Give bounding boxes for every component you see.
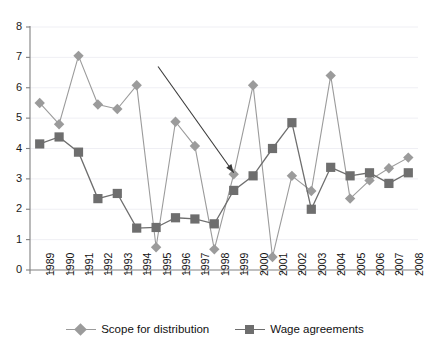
x-tick-label-1995: 1995 bbox=[161, 253, 173, 276]
square-marker-icon bbox=[245, 325, 254, 334]
x-tick-label-2004: 2004 bbox=[335, 253, 347, 276]
x-tick-label-2007: 2007 bbox=[393, 253, 405, 276]
x-tick-label-1996: 1996 bbox=[180, 253, 192, 276]
chart-container: 876543210 198919901991199219931994199519… bbox=[0, 0, 430, 343]
x-tick-label-1992: 1992 bbox=[102, 253, 114, 276]
legend-swatch-square-icon bbox=[235, 323, 265, 335]
diamond-marker-icon bbox=[74, 323, 87, 336]
x-tick-label-1997: 1997 bbox=[199, 253, 211, 276]
x-tick-label-2000: 2000 bbox=[258, 253, 270, 276]
legend-swatch-diamond-icon bbox=[66, 323, 96, 335]
legend-label-wage: Wage agreements bbox=[268, 323, 364, 335]
x-tick-label-1998: 1998 bbox=[219, 253, 231, 276]
x-tick-label-1993: 1993 bbox=[122, 253, 134, 276]
x-tick-label-1991: 1991 bbox=[83, 253, 95, 276]
x-tick-label-2005: 2005 bbox=[355, 253, 367, 276]
x-tick-label-1999: 1999 bbox=[238, 253, 250, 276]
x-tick-label-1990: 1990 bbox=[64, 253, 76, 276]
legend-label-scope: Scope for distribution bbox=[99, 323, 209, 335]
legend-item-scope-for-distribution[interactable]: Scope for distribution bbox=[66, 323, 209, 335]
x-tick-label-2003: 2003 bbox=[316, 253, 328, 276]
chart-legend: Scope for distribution Wage agreements bbox=[0, 318, 430, 340]
x-tick-label-1994: 1994 bbox=[141, 253, 153, 276]
x-tick-label-2002: 2002 bbox=[296, 253, 308, 276]
x-tick-label-2001: 2001 bbox=[277, 253, 289, 276]
x-tick-label-2006: 2006 bbox=[374, 253, 386, 276]
x-tick-label-2008: 2008 bbox=[413, 253, 425, 276]
x-axis-labels: 1989199019911992199319941995199619971998… bbox=[0, 0, 430, 343]
x-tick-label-1989: 1989 bbox=[44, 253, 56, 276]
legend-item-wage-agreements[interactable]: Wage agreements bbox=[235, 323, 364, 335]
